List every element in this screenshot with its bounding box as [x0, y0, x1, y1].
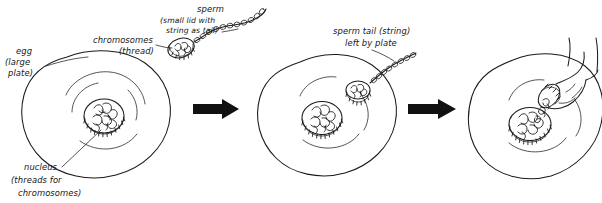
egg-label-line-2: (large: [5, 57, 30, 67]
sperm-label-line-2: (small lid with: [160, 16, 215, 25]
egg-label-line-3: plate): [7, 68, 33, 78]
egg-label-line-1: egg: [16, 46, 32, 56]
label-nucleus: nucleus (threads for chromosomes): [11, 162, 81, 198]
sperm-tail-label-line-1: sperm tail (string): [333, 26, 410, 36]
nucleus-label-line-1: nucleus: [24, 162, 58, 172]
sperm-label-line-1: sperm: [197, 4, 224, 14]
label-chromosomes: chromosomes (thread): [93, 35, 154, 56]
nucleus-label-line-3: chromosomes): [18, 188, 81, 198]
chromosomes-label-line-2: (thread): [119, 46, 154, 56]
sperm-label-line-3: string as tail): [166, 26, 218, 35]
diagram-text-layer: egg (large plate) chromosomes (thread) s…: [0, 0, 602, 203]
label-sperm: sperm (small lid with string as tail): [160, 4, 224, 35]
fertilization-diagram: egg (large plate) chromosomes (thread) s…: [0, 0, 602, 203]
label-egg: egg (large plate): [5, 46, 33, 78]
nucleus-label-line-2: (threads for: [11, 175, 62, 185]
sperm-tail-label-line-2: left by plate: [345, 38, 397, 48]
chromosomes-label-line-1: chromosomes: [93, 35, 154, 45]
label-sperm-tail: sperm tail (string) left by plate: [333, 26, 410, 48]
